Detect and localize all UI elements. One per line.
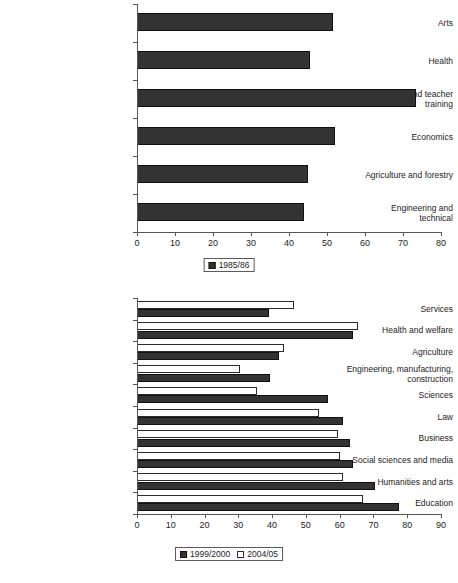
x-tick [340,514,341,518]
bar-dark [137,331,353,339]
category-label: Economics [323,132,458,142]
chart-row: Education and teacher training [0,80,458,118]
x-tick-label: 20 [208,238,218,248]
x-tick-label: 30 [233,520,243,530]
category-label: Engineering, manufacturing, construction [323,364,458,384]
chart-row: Business [0,428,458,450]
x-tick [403,232,404,236]
legend-entry: 1999/2000 [180,549,230,559]
bar-light [137,322,358,330]
x-tick [213,232,214,236]
y-tick [133,406,137,407]
x-tick-label: 60 [335,520,345,530]
chart-row: Arts [0,4,458,42]
y-tick [133,80,137,81]
y-tick [133,363,137,364]
chart-row: Health [0,42,458,80]
legend-label: 1985/86 [219,260,250,270]
category-label: Agriculture and forestry [323,170,458,180]
x-tick [251,232,252,236]
bar-dark [137,482,375,490]
chart-row: Education [0,492,458,514]
x-tick [306,514,307,518]
y-tick [133,4,137,5]
x-tick-label: 80 [436,238,446,248]
category-label: Sciences [323,390,458,400]
bar-light [137,387,257,395]
x-tick-label: 10 [170,238,180,248]
legend-swatch-dark [209,262,216,269]
x-tick-label: 30 [246,238,256,248]
x-tick [289,232,290,236]
x-tick-label: 20 [200,520,210,530]
bar-dark [137,13,333,31]
chart-row: Law [0,406,458,428]
bar-dark [137,89,416,107]
x-tick [327,232,328,236]
y-tick [133,298,137,299]
chart-row: Services [0,298,458,320]
x-tick-label: 40 [267,520,277,530]
bar-light [137,365,240,373]
bar-dark [137,309,269,317]
x-tick [373,514,374,518]
x-tick-label: 40 [284,238,294,248]
legend-entry: 1985/86 [209,260,250,270]
x-tick-label: 70 [368,520,378,530]
legend-swatch-light [237,551,244,558]
y-tick [133,341,137,342]
chart-row: Engineering and technical [0,194,458,232]
legend-label: 2004/05 [247,549,278,559]
y-tick [133,384,137,385]
bar-dark [137,460,353,468]
category-label: Health [323,56,458,66]
y-tick [133,118,137,119]
x-tick-label: 10 [166,520,176,530]
x-tick [238,514,239,518]
y-tick [133,449,137,450]
category-label: Law [323,412,458,422]
y-axis-line [137,298,138,514]
bar-dark [137,374,270,382]
x-tick [272,514,273,518]
category-label: Services [323,304,458,314]
bar-dark [137,165,308,183]
x-tick [171,514,172,518]
x-axis-line [137,514,441,515]
chart-row: Sciences [0,384,458,406]
bar-dark [137,395,328,403]
bar-light [137,409,319,417]
bar-light [137,452,340,460]
legend-bottom: 1999/20002004/05 [175,547,283,561]
y-tick [133,320,137,321]
chart-row: Social sciences and media [0,449,458,471]
chart-row: Humanities and arts [0,471,458,493]
y-tick [133,194,137,195]
bar-dark [137,503,399,511]
category-label: Arts [323,18,458,28]
y-tick [133,492,137,493]
chart-row: Health and welfare [0,320,458,342]
bar-dark [137,51,310,69]
x-tick [441,232,442,236]
x-tick [137,514,138,518]
y-tick [133,42,137,43]
y-tick [133,471,137,472]
bar-dark [137,417,343,425]
x-tick [441,514,442,518]
chart-row: Agriculture [0,341,458,363]
chart-row: Agriculture and forestry [0,156,458,194]
category-rows: ServicesHealth and welfareAgricultureEng… [0,298,458,514]
bar-light [137,344,284,352]
legend-swatch-dark [180,551,187,558]
x-tick-label: 0 [134,520,139,530]
chart-bottom: ServicesHealth and welfareAgricultureEng… [0,288,458,583]
bar-dark [137,127,335,145]
x-tick-label: 80 [402,520,412,530]
x-tick [365,232,366,236]
y-axis-line [137,4,138,232]
legend-entry: 2004/05 [237,549,278,559]
x-tick [137,232,138,236]
x-tick-label: 90 [436,520,446,530]
chart-row: Economics [0,118,458,156]
